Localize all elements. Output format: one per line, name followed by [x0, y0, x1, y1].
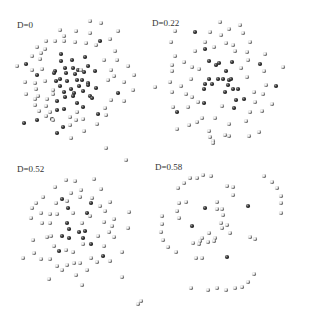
particle-light — [187, 123, 191, 127]
particle-light — [208, 135, 212, 139]
particle-light — [161, 238, 165, 242]
particle-light — [194, 256, 198, 260]
particle-dark — [232, 106, 236, 110]
particle-light — [262, 174, 266, 178]
particle-light — [51, 92, 55, 96]
particle-dark — [207, 59, 211, 63]
particle-light — [74, 273, 78, 277]
particle-light — [88, 19, 92, 23]
particle-light — [31, 238, 35, 242]
particle-light — [40, 67, 44, 71]
particle-dark — [81, 236, 85, 240]
particle-light — [95, 122, 99, 126]
particle-light — [65, 199, 69, 203]
particle-dark — [231, 87, 235, 91]
particle-light — [200, 116, 204, 120]
particle-dark — [62, 107, 66, 111]
particle-light — [195, 176, 199, 180]
particle-light — [227, 134, 231, 138]
particle-light — [246, 280, 250, 284]
particle-light — [203, 40, 207, 44]
particle-light — [263, 52, 267, 56]
particle-light — [107, 230, 111, 234]
particle-light — [188, 176, 192, 180]
particle-light — [62, 39, 66, 43]
particle-light — [153, 85, 157, 89]
particle-light — [195, 120, 199, 124]
particle-light — [90, 196, 94, 200]
particle-light — [30, 68, 34, 72]
particle-light — [253, 100, 257, 104]
particle-light — [32, 251, 36, 255]
particle-light — [224, 288, 228, 292]
particle-light — [248, 40, 252, 44]
particle-light — [112, 235, 116, 239]
particle-dark — [207, 77, 211, 81]
particle-light — [223, 133, 227, 137]
particle-light — [279, 201, 283, 205]
particle-dark — [223, 90, 227, 94]
panel-label-d058: D=0.58 — [155, 162, 183, 172]
particle-light — [262, 69, 266, 73]
particle-light — [191, 241, 195, 245]
particle-light — [220, 226, 224, 230]
particle-light — [62, 34, 66, 38]
particle-light — [122, 99, 126, 103]
particle-dark — [214, 63, 218, 67]
particle-light — [103, 209, 107, 213]
particle-light — [206, 240, 210, 244]
particle-light — [60, 268, 64, 272]
particle-dark — [83, 229, 87, 233]
particle-light — [218, 20, 222, 24]
particle-light — [175, 127, 179, 131]
particle-dark — [59, 52, 63, 56]
particle-light — [212, 45, 216, 49]
particle-dark — [94, 86, 98, 90]
particle-light — [21, 256, 25, 260]
particle-dark — [81, 105, 85, 109]
particle-dark — [77, 84, 81, 88]
particle-light — [69, 136, 73, 140]
particle-dark — [242, 97, 246, 101]
particle-dark — [202, 87, 206, 91]
particle-dark — [64, 71, 68, 75]
particle-light — [78, 195, 82, 199]
particle-dark — [58, 77, 62, 81]
particle-light — [112, 217, 116, 221]
particle-light — [211, 141, 215, 145]
particle-dark — [22, 121, 26, 125]
particle-light — [102, 58, 106, 62]
particle-light — [74, 29, 78, 33]
particle-dark — [210, 82, 214, 86]
particle-light — [39, 51, 43, 55]
particle-dark — [55, 131, 59, 135]
particle-light — [261, 92, 265, 96]
particle-dark — [81, 89, 85, 93]
particle-light — [73, 179, 77, 183]
particle-light — [55, 212, 59, 216]
particle-dark — [193, 30, 197, 34]
particle-light — [240, 285, 244, 289]
particle-light — [95, 260, 99, 264]
particle-light — [120, 275, 124, 279]
particle-dark — [66, 206, 70, 210]
particle-light — [55, 264, 59, 268]
particle-light — [248, 235, 252, 239]
particle-dark — [24, 62, 28, 66]
particle-light — [75, 110, 79, 114]
particle-light — [177, 201, 181, 205]
particle-light — [48, 110, 52, 114]
particle-light — [175, 209, 179, 213]
particle-light — [196, 100, 200, 104]
particle-light — [35, 45, 39, 49]
particle-dark — [85, 211, 89, 215]
particle-light — [103, 106, 107, 110]
particle-light — [88, 31, 92, 35]
particle-light — [23, 80, 27, 84]
particle-light — [221, 213, 225, 217]
particle-dark — [216, 77, 220, 81]
particles-d022 — [153, 20, 285, 145]
particle-dark — [274, 84, 278, 88]
particle-dark — [226, 83, 230, 87]
particle-light — [219, 33, 223, 37]
